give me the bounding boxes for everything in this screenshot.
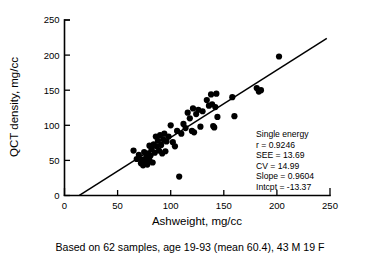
x-axis-tick-labels: 050100150200250 xyxy=(62,200,338,211)
data-point xyxy=(158,142,164,148)
x-tick-label-0: 0 xyxy=(62,200,67,211)
data-point xyxy=(150,159,156,165)
data-point xyxy=(130,147,136,153)
stats-line-slope: Slope = 0.9604 xyxy=(256,171,314,181)
y-tick-label-100: 100 xyxy=(44,120,60,131)
data-point xyxy=(199,108,205,114)
data-point xyxy=(172,143,178,149)
x-tick-label-250: 250 xyxy=(322,200,338,211)
y-axis-title: QCT density, mg/cc xyxy=(8,57,20,157)
data-point xyxy=(229,94,235,100)
data-point xyxy=(231,113,237,119)
y-tick-label-150: 150 xyxy=(44,85,60,96)
y-axis-tick-labels: 050100150200250 xyxy=(44,14,60,201)
x-axis-title: Ashweight, mg/cc xyxy=(152,215,242,227)
y-tick-label-200: 200 xyxy=(44,50,60,61)
data-point xyxy=(187,115,193,121)
data-point xyxy=(182,125,188,131)
x-tick-label-50: 50 xyxy=(112,200,123,211)
data-point xyxy=(258,87,264,93)
stats-line-cv: CV = 14.99 xyxy=(256,161,299,171)
data-point xyxy=(211,124,217,130)
figure-caption: Based on 62 samples, age 19-93 (mean 60.… xyxy=(55,241,325,253)
data-point xyxy=(185,110,191,116)
data-point xyxy=(165,133,171,139)
x-tick-label-150: 150 xyxy=(216,200,232,211)
stats-line-r: r = 0.9246 xyxy=(256,140,295,150)
x-axis: 050100150200250 Ashweight, mg/cc xyxy=(62,188,338,227)
y-axis-ticks xyxy=(65,20,71,196)
data-point xyxy=(212,104,218,110)
data-point xyxy=(168,122,174,128)
y-tick-label-250: 250 xyxy=(44,14,60,25)
data-point xyxy=(197,124,203,130)
statistics-annotation: Single energy r = 0.9246 SEE = 13.69 CV … xyxy=(256,129,314,192)
scatter-plot-figure: 050100150200250 QCT density, mg/cc 05010… xyxy=(0,0,377,262)
x-tick-label-200: 200 xyxy=(269,200,285,211)
y-axis: 050100150200250 QCT density, mg/cc xyxy=(8,14,70,201)
x-tick-label-100: 100 xyxy=(163,200,179,211)
data-point xyxy=(204,97,210,103)
stats-line-see: SEE = 13.69 xyxy=(256,150,305,160)
data-point xyxy=(176,173,182,179)
data-point xyxy=(178,131,184,137)
y-tick-label-50: 50 xyxy=(49,155,60,166)
data-point xyxy=(214,114,220,120)
stats-heading: Single energy xyxy=(256,129,309,139)
data-point xyxy=(191,129,197,135)
data-point xyxy=(208,91,214,97)
data-point xyxy=(213,91,219,97)
y-tick-label-0: 0 xyxy=(54,190,59,201)
stats-line-intcpt: Intcpt = -13.37 xyxy=(256,182,311,192)
data-point xyxy=(162,148,168,154)
chart-canvas: 050100150200250 QCT density, mg/cc 05010… xyxy=(0,0,377,262)
data-point xyxy=(190,105,196,111)
data-point xyxy=(276,53,282,59)
